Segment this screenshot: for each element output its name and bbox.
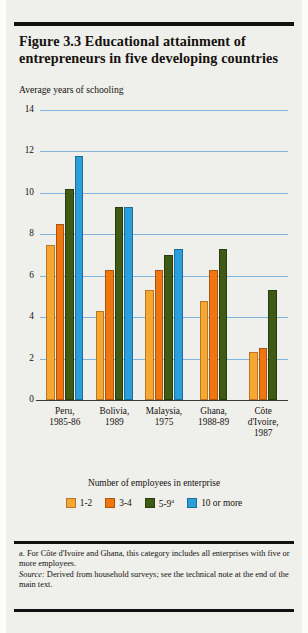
page-edge-right [302,0,308,633]
legend-item[interactable]: 1-2 [66,498,93,508]
legend-item[interactable]: 3-4 [105,498,132,508]
source-label: Source: [19,570,45,579]
bar [174,249,183,400]
bar [268,290,277,400]
bar [249,352,258,400]
bar [75,156,84,400]
bar [65,189,74,400]
legend-swatch-icon [187,498,197,508]
source-note: Source: Derived from household surveys; … [19,570,291,591]
legend-item[interactable]: 5-9a [145,497,174,509]
footnote-a: a. For Côte d'Ivoire and Ghana, this cat… [19,549,291,570]
y-axis-tick-label: 10 [25,187,34,197]
figure-panel: Figure 3.3 Educational attainment of ent… [0,0,308,633]
bar [96,311,105,400]
bar [155,270,164,401]
legend-item[interactable]: 10 or more [187,498,242,508]
bar-group [200,110,228,400]
bar-group [46,110,83,400]
legend-rule [14,541,294,544]
y-axis-tick-label: 0 [29,394,34,404]
bottom-rule [14,609,294,612]
bar [259,348,268,400]
bar [219,249,228,400]
y-axis-tick-label: 6 [29,270,34,280]
bar-group [249,110,277,400]
bar [115,207,124,400]
y-axis-tick-label: 2 [29,352,34,362]
y-axis-tick-label: 8 [29,228,34,238]
y-axis-tick-label: 14 [25,104,34,114]
axis-subtitle: Average years of schooling [19,84,124,95]
legend-swatch-icon [145,498,155,508]
x-axis-label: Côte d'Ivoire, 1987 [232,406,294,439]
bar [209,270,218,401]
bar [124,207,133,400]
legend-label: 3-4 [119,498,132,508]
chart-legend: 1-23-45-9a10 or more [0,497,308,509]
bar [46,245,55,400]
legend-label: 1-2 [80,498,93,508]
figure-title: Figure 3.3 Educational attainment of ent… [19,33,291,67]
bar [56,224,65,400]
legend-swatch-icon [105,498,115,508]
legend-label: 10 or more [201,498,242,508]
bar-group [145,110,182,400]
chart-plot-area: 02468101214Peru, 1985-86Bolivia, 1989Mal… [40,110,288,400]
bar [145,290,154,400]
top-rule [14,22,294,26]
legend-label: 5-9a [159,497,174,509]
y-axis-tick-label: 12 [25,145,34,155]
y-axis-tick-label: 4 [29,311,34,321]
source-text: Derived from household surveys; see the … [19,570,289,589]
bar [105,270,114,401]
legend-title: Number of employees in enterprise [0,478,308,488]
figure-notes: a. For Côte d'Ivoire and Ghana, this cat… [19,549,291,590]
bar-group [96,110,133,400]
page-edge-left [0,0,6,633]
legend-swatch-icon [66,498,76,508]
bar [164,255,173,400]
bar [200,301,209,400]
